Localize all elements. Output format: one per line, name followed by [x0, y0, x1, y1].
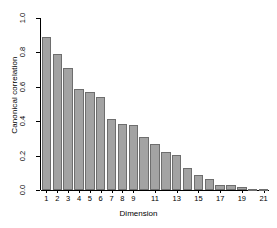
bar	[161, 152, 171, 190]
bar	[42, 37, 52, 190]
bar	[183, 168, 193, 190]
bar	[205, 179, 215, 190]
bar	[129, 125, 139, 190]
bar	[74, 89, 84, 190]
bar	[53, 54, 63, 190]
canonical-correlation-bar-chart: Canonical correlation 0.00.20.40.60.81.0…	[0, 0, 277, 228]
bar	[150, 144, 160, 190]
bar	[63, 68, 73, 190]
bar	[118, 124, 128, 190]
bar	[259, 189, 269, 191]
bars-container	[0, 0, 277, 228]
bar	[237, 187, 247, 190]
bar	[194, 175, 204, 190]
bar	[172, 155, 182, 190]
bar	[85, 92, 95, 190]
bar	[226, 185, 236, 190]
bar	[215, 185, 225, 190]
bar	[107, 119, 117, 190]
bar	[248, 189, 258, 191]
bar	[139, 137, 149, 190]
x-axis-title: Dimension	[0, 208, 277, 220]
bar	[96, 97, 106, 190]
